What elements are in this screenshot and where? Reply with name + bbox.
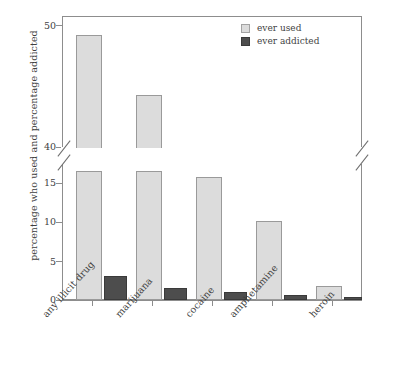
bar-chart-figure: percentage who used and percentage addic… [0, 0, 402, 367]
y-tick-label-5: 5 [16, 257, 56, 267]
y-tick-label-15: 15 [16, 178, 56, 188]
y-tick-mark-15 [56, 183, 62, 184]
legend-swatch-ever-addicted-icon [241, 37, 250, 46]
y-tick-mark-40 [56, 147, 62, 148]
legend-label-ever-used: ever used [257, 24, 301, 33]
chart-legend: ever used ever addicted [241, 24, 319, 50]
x-tick-mark-heroin [332, 300, 333, 306]
legend-swatch-ever-used-icon [241, 24, 250, 33]
x-tick-mark-marijuana [152, 300, 153, 306]
y-tick-mark-10 [56, 222, 62, 223]
bar-any-illicit-drug-ever-addicted [104, 276, 127, 300]
legend-item-ever-addicted: ever addicted [241, 37, 319, 46]
axis-break-gap [63, 148, 361, 171]
bar-cocaine-ever-used [196, 177, 222, 300]
bar-marijuana-ever-addicted [164, 288, 187, 300]
y-tick-label-40: 40 [16, 142, 56, 152]
y-tick-mark-50 [56, 25, 62, 26]
x-tick-mark-any-illicit-drug [92, 300, 93, 306]
legend-item-ever-used: ever used [241, 24, 319, 33]
x-tick-mark-amphetamine [272, 300, 273, 306]
y-tick-mark-5 [56, 261, 62, 262]
x-tick-mark-cocaine [212, 300, 213, 306]
y-tick-label-50: 50 [16, 21, 56, 31]
legend-label-ever-addicted: ever addicted [257, 37, 319, 46]
y-tick-label-10: 10 [16, 217, 56, 227]
